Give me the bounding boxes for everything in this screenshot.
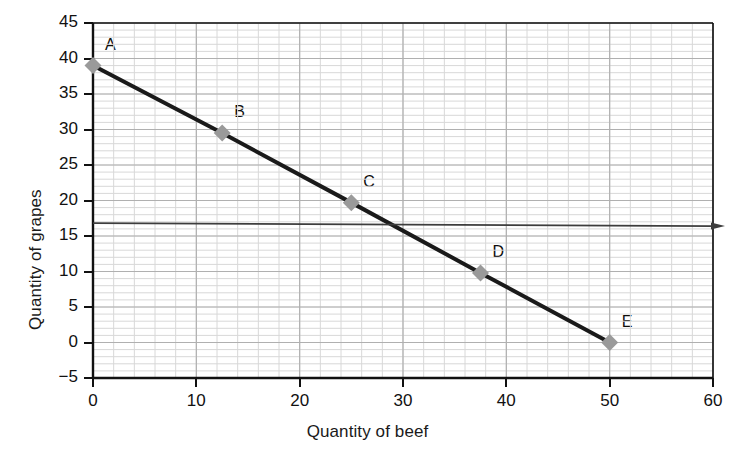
chart-container: Quantity of grapes Quantity of beef −505… [0, 0, 735, 463]
plot-area [0, 0, 735, 463]
grid-major-lines [93, 23, 713, 378]
